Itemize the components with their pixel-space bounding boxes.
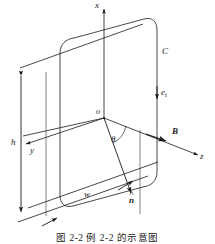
magnetic-field-arrow xyxy=(146,134,166,141)
curve-label: C xyxy=(162,47,168,56)
origin-marker xyxy=(103,117,105,119)
height-dimension-label: h xyxy=(11,138,16,147)
ei-subscript: i xyxy=(165,91,167,98)
z-axis xyxy=(104,118,198,155)
mid-rail xyxy=(23,118,104,136)
y-axis xyxy=(26,118,104,144)
top-rail xyxy=(20,24,143,68)
magnetic-field-label: B xyxy=(172,127,178,136)
hat-accent-icon: ^ xyxy=(129,191,134,199)
origin-label: o xyxy=(96,108,100,116)
normal-vector xyxy=(104,118,131,193)
unit-vector-ei-label: ei xyxy=(161,88,167,97)
y-axis-label: y xyxy=(30,146,34,155)
width-dimension-label: w xyxy=(84,190,90,199)
z-axis-label: z xyxy=(200,152,204,161)
x-axis-label: x xyxy=(95,1,99,10)
theta-label: θ xyxy=(111,135,115,144)
figure-caption: 图 2-2 例 2-2 的示意图 xyxy=(0,230,215,244)
normal-vector-label: ^n xyxy=(129,196,134,205)
